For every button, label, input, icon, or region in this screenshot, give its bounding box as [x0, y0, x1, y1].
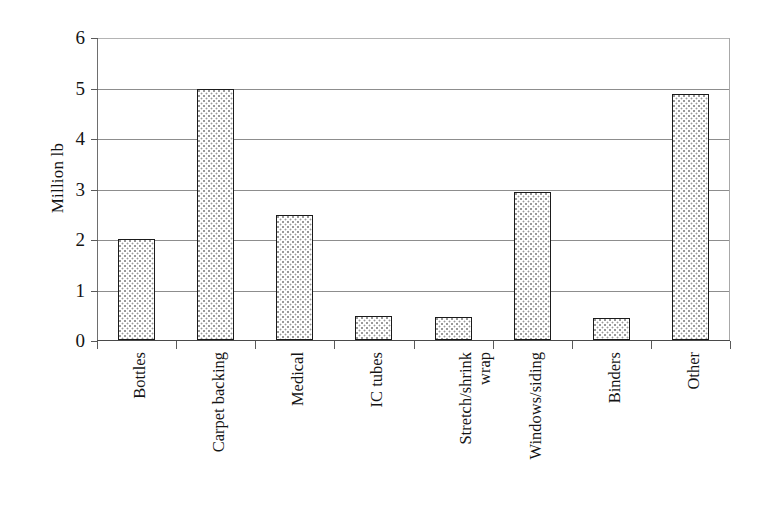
y-axis-tick	[91, 190, 98, 191]
bar	[593, 318, 630, 340]
x-axis-tick	[414, 341, 415, 349]
bar	[514, 192, 551, 340]
x-axis-tick	[334, 341, 335, 349]
y-axis-tick	[91, 240, 98, 241]
x-axis-category-label: Stretch/shrink wrap	[456, 352, 494, 502]
bar	[118, 239, 155, 340]
x-axis-tick	[493, 341, 494, 349]
gridline	[97, 240, 730, 241]
y-axis-tick-label: 5	[59, 79, 85, 98]
x-axis-tick	[255, 341, 256, 349]
y-axis-tick	[91, 139, 98, 140]
x-axis-category-label: Medical	[288, 352, 307, 502]
bar	[435, 317, 472, 340]
y-axis-tick	[91, 89, 98, 90]
gridline	[97, 38, 730, 39]
plot-area	[97, 38, 730, 341]
bar	[276, 215, 313, 340]
y-axis-tick-label: 6	[59, 28, 85, 47]
x-axis-tick	[176, 341, 177, 349]
gridline	[97, 190, 730, 191]
x-axis-category-label: Windows/siding	[526, 352, 545, 502]
x-axis-category-label: Other	[684, 352, 703, 502]
y-axis-tick	[91, 38, 98, 39]
bar	[355, 316, 392, 340]
gridline	[97, 291, 730, 292]
y-axis-tick	[91, 291, 98, 292]
plot-right-border	[729, 38, 730, 341]
x-axis-category-label: IC tubes	[367, 352, 386, 502]
x-axis-tick	[97, 341, 98, 349]
x-axis-tick	[651, 341, 652, 349]
bar	[197, 89, 234, 340]
gridline	[97, 139, 730, 140]
x-axis-tick	[730, 341, 731, 349]
y-axis-tick-label: 0	[59, 331, 85, 350]
y-axis-tick-label: 3	[59, 180, 85, 199]
y-axis-tick-label: 2	[59, 230, 85, 249]
gridline	[97, 89, 730, 90]
bar-chart: Million lb 6543210 BottlesCarpet backing…	[0, 0, 757, 525]
x-axis-category-label: Carpet backing	[209, 352, 228, 502]
y-axis-tick-label: 4	[59, 129, 85, 148]
x-axis-tick	[572, 341, 573, 349]
y-axis-tick-label: 1	[59, 281, 85, 300]
bar	[672, 94, 709, 340]
x-axis-category-label: Bottles	[130, 352, 149, 502]
x-axis-category-label: Binders	[605, 352, 624, 502]
